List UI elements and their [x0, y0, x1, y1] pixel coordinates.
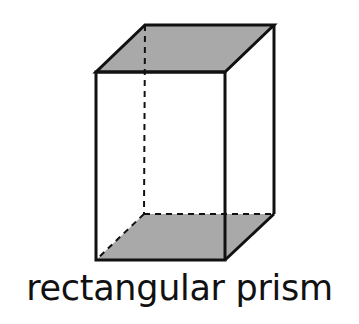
bottom-face [96, 214, 274, 260]
shape-label: rectangular prism [0, 266, 359, 310]
top-face [96, 25, 274, 72]
